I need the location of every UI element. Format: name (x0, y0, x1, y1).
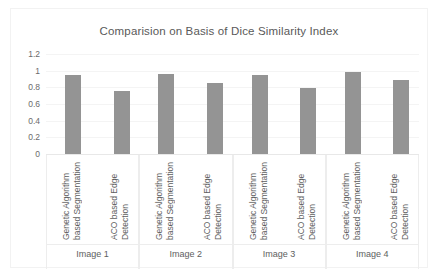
bar (207, 83, 223, 154)
x-axis-category-label: ACO based Edge Detection (389, 156, 410, 240)
bar (158, 74, 174, 154)
x-axis-category-label: ACO based Edge Detection (296, 156, 317, 240)
category-group-box: Genetic Algorithm based SegmentationACO … (139, 155, 232, 245)
y-axis-tick-label: 0.8 (28, 82, 40, 92)
category-group-box: Genetic Algorithm based SegmentationACO … (326, 155, 419, 245)
y-axis-tick-label: 0 (35, 149, 40, 159)
bar (65, 75, 81, 154)
x-axis-group-label: Image 2 (139, 245, 232, 269)
y-axis-tick-label: 0.6 (28, 99, 40, 109)
category-label-band: Genetic Algorithm based SegmentationACO … (46, 155, 419, 245)
bar (393, 80, 409, 154)
x-axis-category-label: Genetic Algorithm based Segmentation (154, 156, 175, 240)
x-axis-category-label: Genetic Algorithm based Segmentation (341, 156, 362, 240)
y-axis: 00.20.40.60.811.2 (11, 54, 43, 154)
x-axis-group-label: Image 4 (326, 245, 419, 269)
y-axis-tick-label: 0.2 (28, 132, 40, 142)
x-axis-category-label: ACO based Edge Detection (202, 156, 223, 240)
chart-title: Comparision on Basis of Dice Similarity … (11, 25, 427, 37)
category-group-box: Genetic Algorithm based SegmentationACO … (46, 155, 139, 245)
y-axis-tick-label: 0.4 (28, 116, 40, 126)
x-axis-category-label: Genetic Algorithm based Segmentation (61, 156, 82, 240)
y-axis-tick-label: 1 (35, 66, 40, 76)
x-axis-category-label: ACO based Edge Detection (109, 156, 130, 240)
group-label-band: Image 1Image 2Image 3Image 4 (46, 245, 419, 269)
plot-area (46, 54, 419, 154)
bar (114, 91, 130, 154)
x-axis-category-label: Genetic Algorithm based Segmentation (248, 156, 269, 240)
bars-layer (46, 54, 419, 154)
bar (300, 88, 316, 154)
y-axis-tick-label: 1.2 (28, 49, 40, 59)
bar (252, 75, 268, 154)
category-group-box: Genetic Algorithm based SegmentationACO … (233, 155, 326, 245)
x-axis-group-label: Image 3 (233, 245, 326, 269)
x-axis-group-label: Image 1 (46, 245, 139, 269)
bar (345, 72, 361, 154)
chart-frame: Comparision on Basis of Dice Similarity … (10, 8, 428, 268)
